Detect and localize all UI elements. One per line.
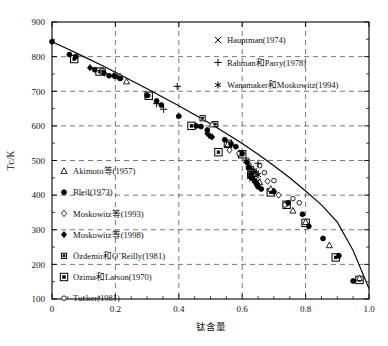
y-tick-label: 400 [32, 190, 46, 200]
marker-circle-filled [154, 98, 159, 103]
marker-square-dot-small-legend-center [63, 255, 65, 257]
legend-right-item: Rahman和Parry(1978) [214, 58, 306, 68]
chart-figure: 00.20.40.60.81.0 10020030040050060070080… [0, 0, 388, 346]
marker-circle-filled [208, 134, 213, 139]
marker-circle-filled [145, 93, 150, 98]
marker-circle-filled [176, 114, 181, 119]
marker-circle-filled [286, 200, 291, 205]
marker-circle-filled [321, 236, 326, 241]
marker-circle-filled [194, 123, 199, 128]
y-axis-tick-labels: 100200300400500600700800900 [32, 17, 46, 304]
marker-circle-filled [336, 253, 341, 258]
marker-circle-filled [67, 52, 72, 57]
marker-circle-filled [240, 151, 245, 156]
y-tick-label: 800 [32, 52, 46, 62]
x-tick-label: 0.4 [173, 304, 185, 314]
x-tick-label: 1.0 [363, 304, 375, 314]
y-tick-label: 700 [32, 87, 46, 97]
legend-left-label: Ozima和Larson(1970) [73, 272, 152, 282]
y-tick-label: 100 [32, 294, 46, 304]
marker-circle-filled [73, 54, 78, 59]
marker-circle-filled [259, 186, 264, 191]
curie-temperature-scatter-plot: 00.20.40.60.81.0 10020030040050060070080… [0, 0, 388, 346]
legend-right-label: Hauptman(1974) [227, 35, 286, 45]
marker-circle-filled [222, 137, 227, 142]
marker-square-dot-large-center [190, 125, 193, 128]
y-tick-label: 500 [32, 156, 46, 166]
legend-left-label: Akimoto等(1957) [73, 165, 136, 176]
marker-circle-open-small-legend [62, 296, 67, 301]
marker-circle-filled [300, 212, 305, 217]
x-tick-label: 0 [50, 304, 55, 314]
marker-circle-filled [113, 74, 118, 79]
marker-square-dot-large-center [217, 151, 220, 154]
marker-square-dot-small-center [214, 123, 216, 125]
marker-circle-filled [50, 39, 55, 44]
y-tick-label: 300 [32, 225, 46, 235]
marker-circle-open-small [262, 170, 267, 175]
marker-circle-filled [92, 67, 97, 72]
marker-circle-filled [107, 73, 112, 78]
marker-circle-filled [198, 124, 203, 129]
legend-left-label: Moskowitz等(1998) [73, 229, 144, 240]
marker-circle-filled [205, 128, 210, 133]
legend-left-item: Akimoto等(1957) [61, 165, 136, 176]
x-tick-label: 0.2 [110, 304, 121, 314]
marker-circle-filled [306, 224, 311, 229]
marker-circle-filled [351, 278, 356, 283]
legend-right-label: Rahman和Parry(1978) [227, 58, 306, 68]
marker-circle-filled [271, 189, 276, 194]
x-tick-label: 0.8 [300, 304, 312, 314]
marker-circle-filled [229, 141, 234, 146]
y-axis-label: Tᴄ/K [6, 150, 16, 170]
legend-left-item: Moskowitz等(1993) [61, 208, 143, 219]
plot-background [0, 0, 388, 346]
legend-left-label: Tucker(1981) [73, 293, 120, 303]
legend-left-label: Moskowitz等(1993) [73, 208, 144, 219]
legend-right-item: Wanamaker和Moskowitz(1994) [215, 80, 338, 90]
y-tick-label: 200 [32, 260, 46, 270]
marker-circle-open-small [272, 178, 277, 183]
marker-circle-filled-legend [62, 190, 67, 195]
x-tick-label: 0.6 [237, 304, 249, 314]
legend-left-label: Özdemir和O’Reilly(1981) [73, 251, 165, 261]
marker-circle-filled [118, 76, 123, 81]
legend-left-item: Ozima和Larson(1970) [60, 272, 152, 282]
y-tick-label: 600 [32, 121, 46, 131]
marker-circle-filled [244, 160, 249, 165]
marker-square-dot-small-center [202, 117, 204, 119]
y-tick-label: 900 [32, 17, 46, 27]
marker-circle-filled [233, 144, 238, 149]
legend-right-label: Wanamaker和Moskowitz(1994) [227, 80, 339, 90]
marker-circle-open-small [291, 196, 296, 201]
legend-left-item: Özdemir和O’Reilly(1981) [61, 251, 165, 261]
legend-left-item: Moskowitz等(1998) [61, 229, 143, 240]
marker-circle-filled [159, 103, 164, 108]
marker-circle-open-small [297, 200, 302, 205]
marker-circle-filled [246, 166, 251, 171]
marker-square-dot-large-legend-center [63, 276, 66, 279]
x-axis-label: 钛含量 [196, 321, 226, 332]
legend-left-label: Bleil(1973) [73, 187, 113, 197]
